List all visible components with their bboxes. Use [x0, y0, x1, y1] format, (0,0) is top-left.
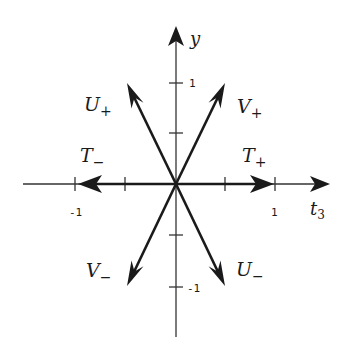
label-u-minus: U− [236, 258, 264, 284]
x-tick-label-neg1: -1 [69, 206, 82, 219]
label-u-plus: U+ [84, 93, 112, 119]
label-t-minus: T− [80, 144, 104, 170]
arrowhead-icon [127, 261, 144, 287]
arrowhead-icon [209, 83, 226, 109]
y-axis-label: y [189, 28, 201, 49]
x-tick-label-1: 1 [271, 206, 278, 219]
weight-diagram: -1 1 1 -1 y t3 [0, 0, 352, 350]
vector-t-minus [78, 175, 176, 193]
label-t-plus: T+ [242, 144, 266, 170]
label-v-minus: V− [86, 259, 111, 285]
label-v-plus: V+ [237, 95, 262, 121]
arrowhead-icon [127, 83, 144, 109]
vector-u-plus [127, 83, 176, 184]
y-tick-label-1: 1 [189, 77, 196, 90]
vector-u-minus [176, 184, 225, 286]
vector-v-plus [176, 83, 225, 184]
arrowhead-icon [209, 261, 226, 287]
vector-v-minus [127, 184, 176, 286]
x-axis-label: t3 [310, 198, 325, 222]
y-tick-label-neg1: -1 [187, 282, 200, 295]
